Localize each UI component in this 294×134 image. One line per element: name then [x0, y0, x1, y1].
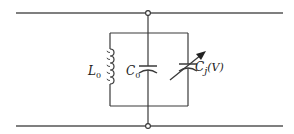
bottom-node [146, 124, 151, 129]
inductor-label: L0 [87, 64, 101, 80]
capacitor-label: C0 [126, 64, 140, 80]
varactor-label: Cj(V) [195, 60, 224, 76]
inductor-symbol [107, 33, 114, 106]
circuit-diagram: L0 C0 Cj(V) [0, 0, 294, 134]
capacitor-symbol [139, 33, 157, 106]
top-node [146, 11, 151, 16]
